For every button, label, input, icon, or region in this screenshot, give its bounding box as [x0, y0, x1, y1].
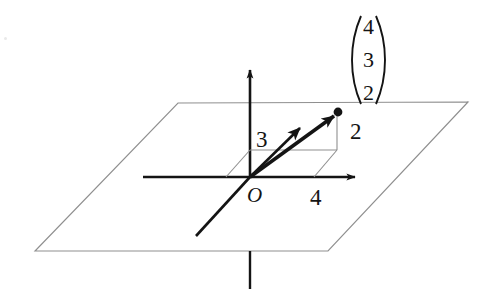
label-x-component: 4 [310, 186, 322, 209]
y-axis [196, 177, 250, 236]
label-y-component: 3 [256, 128, 268, 151]
label-z-component: 2 [350, 120, 362, 143]
construction-line-diagonal [314, 150, 337, 177]
construction-line-foot-diagonal [226, 150, 250, 177]
vector-diagram-figure: 3 4 2 O 4 3 2 [0, 0, 492, 302]
label-origin: O [247, 185, 262, 206]
column-vector-notation: 4 3 2 [349, 14, 388, 106]
vector-entry-3: 2 [363, 82, 374, 104]
vector-entry-1: 4 [363, 16, 374, 38]
right-parenthesis-icon [375, 14, 388, 106]
vector-diagram-canvas [0, 0, 492, 302]
vector-tip-point [334, 108, 343, 117]
left-parenthesis-icon [349, 14, 362, 106]
vector-entries: 4 3 2 [362, 14, 375, 106]
vector-entry-2: 3 [363, 49, 374, 71]
